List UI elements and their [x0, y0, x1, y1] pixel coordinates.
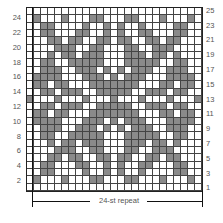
chart-cell — [97, 81, 104, 88]
chart-cell — [69, 67, 76, 74]
chart-cell — [111, 45, 118, 52]
row-label: 16 — [5, 73, 21, 81]
chart-cell — [97, 30, 104, 37]
chart-cell — [55, 169, 62, 176]
chart-cell — [69, 81, 76, 88]
chart-cell — [160, 15, 167, 22]
chart-cell — [153, 23, 160, 30]
chart-cell — [76, 89, 83, 96]
chart-cell — [55, 74, 62, 81]
chart-cell — [181, 45, 188, 52]
chart-cell — [111, 169, 118, 176]
chart-cell — [111, 147, 118, 154]
chart-cell — [111, 125, 118, 132]
chart-cell — [167, 96, 174, 103]
chart-cell — [111, 176, 118, 183]
chart-cell — [76, 125, 83, 132]
chart-cell — [41, 52, 48, 59]
chart-cell — [146, 45, 153, 52]
chart-cell — [125, 81, 132, 88]
chart-cell — [118, 45, 125, 52]
chart-cell — [181, 140, 188, 147]
chart-cell — [153, 162, 160, 169]
chart-cell — [69, 89, 76, 96]
chart-cell — [146, 15, 153, 22]
chart-cell — [83, 176, 90, 183]
chart-cell — [34, 176, 41, 183]
chart-cell — [48, 23, 55, 30]
chart-cell — [174, 140, 181, 147]
chart-cell — [62, 67, 69, 74]
chart-cell — [181, 125, 188, 132]
chart-cell — [62, 154, 69, 161]
row-label: 21 — [206, 36, 220, 44]
chart-cell — [34, 140, 41, 147]
chart-cell — [174, 45, 181, 52]
chart-cell — [174, 59, 181, 66]
chart-cell — [62, 8, 69, 15]
chart-cell — [153, 147, 160, 154]
chart-cell — [90, 15, 97, 22]
chart-cell — [111, 162, 118, 169]
chart-cell — [125, 154, 132, 161]
chart-cell — [125, 59, 132, 66]
chart-cell — [167, 147, 174, 154]
chart-cell — [34, 132, 41, 139]
chart-cell — [83, 8, 90, 15]
chart-cell — [69, 15, 76, 22]
chart-cell — [160, 81, 167, 88]
chart-cell — [167, 140, 174, 147]
chart-cell — [41, 132, 48, 139]
chart-cell — [139, 96, 146, 103]
chart-cell — [181, 132, 188, 139]
chart-cell — [146, 8, 153, 15]
chart-cell — [76, 37, 83, 44]
chart-cell — [160, 110, 167, 117]
chart-cell — [125, 45, 132, 52]
chart-cell — [146, 103, 153, 110]
chart-cell — [111, 30, 118, 37]
chart-cell — [90, 30, 97, 37]
row-label: 14 — [5, 88, 21, 96]
chart-cell — [34, 15, 41, 22]
chart-cell — [111, 8, 118, 15]
chart-cell — [90, 176, 97, 183]
chart-cell — [41, 110, 48, 117]
chart-cell — [41, 184, 48, 191]
row-label: 2 — [5, 177, 21, 185]
chart-cell — [139, 37, 146, 44]
chart-cell — [188, 81, 195, 88]
chart-cell — [41, 81, 48, 88]
chart-cell — [125, 103, 132, 110]
chart-cell — [188, 89, 195, 96]
chart-cell — [111, 110, 118, 117]
chart-cell — [146, 154, 153, 161]
chart-cell — [104, 37, 111, 44]
chart-cell — [146, 30, 153, 37]
chart-cell — [132, 110, 139, 117]
chart-cell — [34, 74, 41, 81]
chart-cell — [153, 110, 160, 117]
chart-cell — [188, 8, 195, 15]
chart-cell — [118, 52, 125, 59]
chart-cell — [111, 118, 118, 125]
chart-cell — [132, 8, 139, 15]
chart-cell — [97, 140, 104, 147]
chart-cell — [181, 30, 188, 37]
chart-cell — [160, 162, 167, 169]
chart-cell — [195, 52, 202, 59]
chart-cell — [90, 132, 97, 139]
chart-cell — [69, 162, 76, 169]
chart-cell — [132, 74, 139, 81]
row-label: 11 — [206, 110, 220, 118]
chart-cell — [104, 23, 111, 30]
chart-cell — [195, 140, 202, 147]
chart-cell — [69, 8, 76, 15]
chart-cell — [132, 154, 139, 161]
chart-cell — [111, 89, 118, 96]
chart-cell — [167, 74, 174, 81]
chart-cell — [104, 132, 111, 139]
chart-cell — [132, 176, 139, 183]
chart-cell — [188, 30, 195, 37]
chart-cell — [132, 30, 139, 37]
